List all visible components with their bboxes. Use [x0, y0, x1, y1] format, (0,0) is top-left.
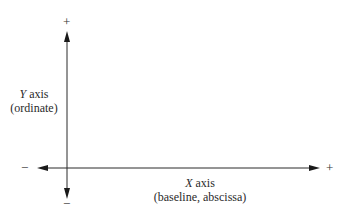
x-axis-negative-sign: −	[21, 161, 28, 174]
x-axis-subtitle: (baseline, abscissa)	[140, 190, 260, 204]
x-axis-right-arrow-icon	[309, 165, 320, 171]
y-axis-title: Y axis	[4, 87, 64, 101]
x-axis-title: X axis	[140, 176, 260, 190]
x-axis-label: X axis (baseline, abscissa)	[140, 176, 260, 204]
y-axis-positive-sign: +	[63, 15, 70, 28]
y-axis-subtitle: (ordinate)	[4, 101, 64, 115]
y-axis-up-arrow-icon	[64, 31, 70, 42]
x-axis-left-arrow-icon	[37, 165, 48, 171]
x-axis-positive-sign: +	[326, 161, 333, 174]
y-axis-negative-sign: −	[63, 197, 70, 210]
y-axis-label: Y axis (ordinate)	[4, 87, 64, 115]
